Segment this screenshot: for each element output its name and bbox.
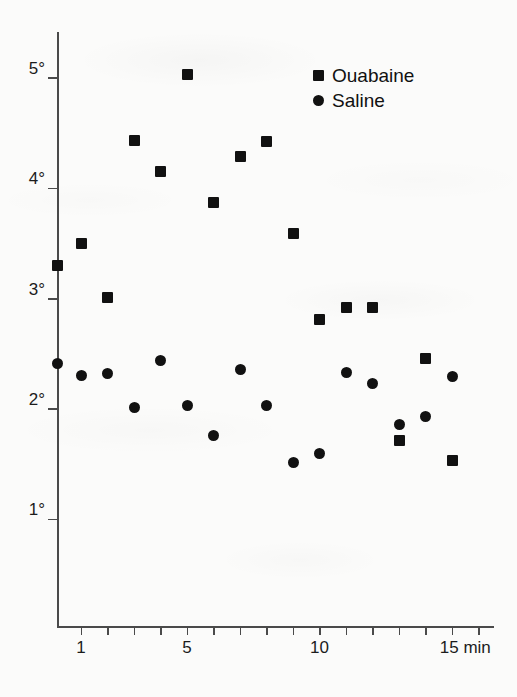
x-axis-tick bbox=[346, 626, 348, 635]
x-axis-tick-label: 15 min bbox=[440, 639, 491, 656]
y-axis-tick bbox=[48, 188, 57, 190]
data-point-ouabaine bbox=[314, 314, 325, 325]
y-axis-tick-label: 1° bbox=[29, 501, 45, 518]
chart-legend: Ouabaine Saline bbox=[313, 63, 414, 113]
legend-label-saline: Saline bbox=[332, 90, 385, 112]
data-point-ouabaine bbox=[447, 455, 458, 466]
square-marker-icon bbox=[313, 70, 324, 81]
x-axis-tick bbox=[399, 626, 401, 635]
data-point-ouabaine bbox=[420, 353, 431, 364]
x-axis-tick bbox=[478, 626, 480, 635]
x-axis-tick bbox=[187, 626, 189, 635]
circle-marker-icon bbox=[313, 95, 324, 106]
data-point-saline bbox=[52, 358, 63, 369]
data-point-saline bbox=[288, 457, 299, 468]
data-point-saline bbox=[447, 371, 458, 382]
y-axis-tick bbox=[48, 408, 57, 410]
x-axis-tick bbox=[452, 626, 454, 635]
data-point-saline bbox=[129, 402, 140, 413]
x-axis-tick-label: 10 bbox=[310, 639, 329, 656]
data-point-ouabaine bbox=[208, 197, 219, 208]
x-axis-tick bbox=[319, 626, 321, 635]
legend-entry-ouabaine: Ouabaine bbox=[313, 63, 414, 88]
x-axis-tick bbox=[160, 626, 162, 635]
chart-page: 151015 min5°4°3°2°1° Ouabaine Saline bbox=[0, 0, 517, 697]
data-point-ouabaine bbox=[155, 166, 166, 177]
x-axis-tick bbox=[372, 626, 374, 635]
legend-label-ouabaine: Ouabaine bbox=[332, 65, 414, 87]
data-point-saline bbox=[235, 364, 246, 375]
data-point-saline bbox=[420, 411, 431, 422]
y-axis-tick-label: 4° bbox=[29, 170, 45, 187]
data-point-saline bbox=[314, 448, 325, 459]
data-point-ouabaine bbox=[76, 238, 87, 249]
legend-entry-saline: Saline bbox=[313, 88, 414, 113]
y-axis-tick bbox=[48, 519, 57, 521]
y-axis-tick-label: 3° bbox=[29, 281, 45, 298]
data-point-ouabaine bbox=[288, 228, 299, 239]
x-axis-tick bbox=[134, 626, 136, 635]
x-axis-tick-label: 1 bbox=[76, 639, 85, 656]
data-point-ouabaine bbox=[367, 302, 378, 313]
x-axis-tick bbox=[266, 626, 268, 635]
data-point-saline bbox=[76, 370, 87, 381]
y-axis-tick-label: 5° bbox=[29, 60, 45, 77]
data-point-saline bbox=[208, 430, 219, 441]
x-axis-tick bbox=[107, 626, 109, 635]
y-axis-tick-label: 2° bbox=[29, 391, 45, 408]
scatter-plot: 151015 min5°4°3°2°1° bbox=[0, 0, 517, 697]
data-point-ouabaine bbox=[52, 260, 63, 271]
x-axis-tick bbox=[293, 626, 295, 635]
data-point-ouabaine bbox=[129, 135, 140, 146]
data-point-ouabaine bbox=[102, 292, 113, 303]
data-point-saline bbox=[182, 400, 193, 411]
data-point-ouabaine bbox=[341, 302, 352, 313]
x-axis-tick-label: 5 bbox=[182, 639, 191, 656]
data-point-saline bbox=[341, 367, 352, 378]
x-axis-tick bbox=[425, 626, 427, 635]
data-point-ouabaine bbox=[182, 69, 193, 80]
y-axis-line bbox=[57, 32, 59, 627]
data-point-ouabaine bbox=[261, 136, 272, 147]
data-point-saline bbox=[261, 400, 272, 411]
data-point-ouabaine bbox=[394, 435, 405, 446]
x-axis-tick bbox=[213, 626, 215, 635]
y-axis-tick bbox=[48, 298, 57, 300]
data-point-saline bbox=[367, 378, 378, 389]
x-axis-tick bbox=[240, 626, 242, 635]
data-point-saline bbox=[155, 355, 166, 366]
data-point-saline bbox=[102, 368, 113, 379]
y-axis-tick bbox=[48, 77, 57, 79]
data-point-saline bbox=[394, 419, 405, 430]
data-point-ouabaine bbox=[235, 151, 246, 162]
x-axis-tick bbox=[81, 626, 83, 635]
x-axis-line bbox=[57, 626, 494, 628]
